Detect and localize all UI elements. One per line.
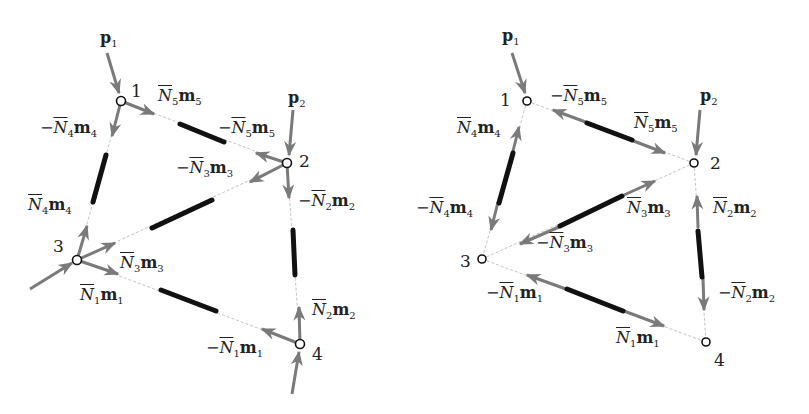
node-label-4: 4 xyxy=(312,346,323,363)
force-label-right-5: −N4m4 xyxy=(416,200,473,219)
force-label-left-9: −N1m1 xyxy=(206,340,263,359)
force-label-left-0: N5m5 xyxy=(158,88,202,107)
force-label-right-1: N5m5 xyxy=(634,115,678,134)
force-label-right-6: −N3m3 xyxy=(536,235,593,254)
force-label-left-2: −N4m4 xyxy=(40,120,97,139)
force-label-left-4: −N2m2 xyxy=(298,193,355,212)
node-label-1: 1 xyxy=(131,83,142,100)
force-label-left-5: N4m4 xyxy=(28,197,72,216)
load-p2-left: p2 xyxy=(288,90,306,109)
node-label-3: 3 xyxy=(53,238,64,255)
node-label-1-right: 1 xyxy=(500,92,511,109)
truss-diagram xyxy=(0,0,809,414)
force-label-right-9: N1m1 xyxy=(616,330,660,349)
force-label-right-8: −N2m2 xyxy=(718,285,775,304)
force-label-left-7: N1m1 xyxy=(80,287,124,306)
force-label-right-4: N2m2 xyxy=(713,200,757,219)
force-label-right-3: N3m3 xyxy=(627,200,671,219)
load-p1-left: p1 xyxy=(100,30,118,49)
member-bars xyxy=(93,124,295,311)
load-p1-right: p1 xyxy=(502,28,520,47)
node-label-3-right: 3 xyxy=(460,253,471,270)
force-label-left-1: −N5m5 xyxy=(218,120,275,139)
node-label-4-right: 4 xyxy=(714,352,725,369)
force-label-right-7: −N1m1 xyxy=(486,285,543,304)
force-label-left-6: N3m3 xyxy=(120,255,164,274)
joints-right xyxy=(478,97,710,346)
node-label-2-right: 2 xyxy=(710,155,721,172)
node-label-2: 2 xyxy=(299,153,310,170)
force-label-right-2: N4m4 xyxy=(457,120,501,139)
load-p2-right: p2 xyxy=(700,88,718,107)
force-label-right-0: −N5m5 xyxy=(550,88,607,107)
force-label-left-8: N2m2 xyxy=(312,302,356,321)
force-label-left-3: −N3m3 xyxy=(176,160,233,179)
